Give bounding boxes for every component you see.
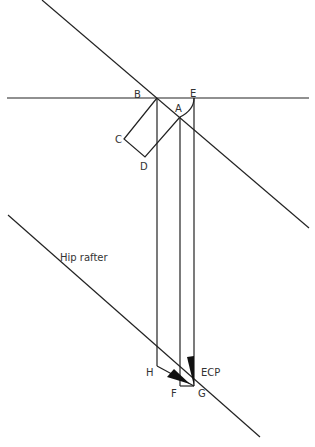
label-hip-rafter: Hip rafter	[60, 252, 108, 263]
label-a: A	[175, 103, 182, 114]
label-f: F	[171, 388, 177, 399]
label-g: G	[198, 388, 206, 399]
arc-a-to-e	[180, 98, 194, 117]
label-e: E	[190, 88, 196, 99]
label-b: B	[134, 89, 141, 100]
diagram-svg: B E A C D H F G ECP Hip rafter	[0, 0, 315, 447]
wedge-ecp	[187, 356, 194, 386]
upper-diagonal-line	[42, 0, 309, 228]
hip-rafter-line	[8, 215, 260, 437]
wedge-h-side	[167, 369, 190, 384]
section-rectangle	[124, 98, 180, 157]
label-c: C	[115, 134, 122, 145]
label-h: H	[146, 367, 154, 378]
label-d: D	[140, 161, 148, 172]
label-ecp: ECP	[201, 367, 220, 378]
hip-rafter-diagram: B E A C D H F G ECP Hip rafter	[0, 0, 315, 447]
